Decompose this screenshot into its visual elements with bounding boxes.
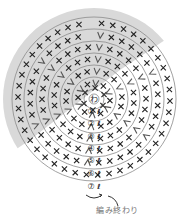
svg-text:ℓ: ℓ	[96, 170, 100, 178]
svg-text:ℓ: ℓ	[96, 108, 100, 116]
svg-text:ℓ: ℓ	[96, 145, 100, 153]
svg-text:⑥: ⑥	[87, 169, 94, 178]
svg-text:③: ③	[87, 132, 94, 141]
svg-text:①: ①	[87, 107, 94, 116]
svg-text:②: ②	[87, 119, 94, 128]
crochet-chart: わ①ℓ②ℓ③ℓ④ℓ⑤ℓ⑥ℓ⑦ℓ	[0, 0, 187, 214]
svg-text:ℓ: ℓ	[96, 157, 100, 165]
svg-text:わ: わ	[90, 95, 98, 104]
row-labels: わ①ℓ②ℓ③ℓ④ℓ⑤ℓ⑥ℓ⑦ℓ	[87, 95, 103, 191]
svg-text:④: ④	[87, 144, 94, 153]
svg-text:⑦: ⑦	[87, 182, 94, 191]
svg-text:ℓ: ℓ	[96, 120, 100, 128]
svg-text:ℓ: ℓ	[96, 183, 100, 191]
svg-text:ℓ: ℓ	[96, 133, 100, 141]
svg-text:⑤: ⑤	[87, 156, 94, 165]
end-of-work-label: 編み終わり	[96, 204, 139, 214]
